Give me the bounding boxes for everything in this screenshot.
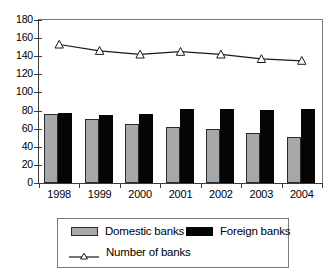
y-axis-tick-mark bbox=[34, 147, 42, 148]
legend-label-number-of-banks: Number of banks bbox=[106, 246, 191, 258]
y-axis-tick-mark bbox=[34, 165, 42, 166]
bar-domestic-banks-2000 bbox=[125, 124, 139, 183]
bar-domestic-banks-2002 bbox=[206, 129, 220, 183]
legend-row-2: Number of banks bbox=[58, 244, 288, 265]
y-axis-tick-label: 160 bbox=[0, 32, 33, 42]
y-axis-tick-label: 180 bbox=[0, 14, 33, 24]
bar-domestic-banks-2001 bbox=[166, 127, 180, 183]
bar-foreign-banks-2001 bbox=[180, 109, 194, 183]
line-triangle-swatch-icon bbox=[69, 248, 99, 257]
bar-foreign-banks-2004 bbox=[301, 109, 315, 183]
y-axis-tick-label: 0 bbox=[0, 177, 33, 187]
y-axis-tick-mark bbox=[34, 38, 42, 39]
legend-item-foreign-banks[interactable]: Foreign banks bbox=[186, 225, 290, 237]
x-axis-tick-mark bbox=[79, 183, 80, 188]
y-axis-tick-label: 140 bbox=[0, 50, 33, 60]
x-axis-tick-mark bbox=[322, 183, 323, 188]
y-axis-tick-mark bbox=[34, 74, 42, 75]
bar-domestic-banks-1998 bbox=[44, 114, 58, 183]
x-axis-tick-label: 1999 bbox=[78, 188, 122, 200]
legend-item-number-of-banks[interactable]: Number of banks bbox=[69, 246, 191, 258]
x-axis-tick-mark bbox=[39, 183, 40, 188]
x-axis-tick-label: 2001 bbox=[159, 188, 203, 200]
bar-domestic-banks-2003 bbox=[246, 133, 260, 183]
bar-domestic-banks-2004 bbox=[287, 137, 301, 183]
x-axis-tick-label: 2003 bbox=[239, 188, 283, 200]
y-axis-tick-mark bbox=[34, 20, 42, 21]
legend-label-foreign-banks: Foreign banks bbox=[220, 225, 290, 237]
y-axis-tick-label: 100 bbox=[0, 86, 33, 96]
x-axis-tick-mark bbox=[120, 183, 121, 188]
bar-foreign-banks-2002 bbox=[220, 109, 234, 183]
y-axis-tick-label: 80 bbox=[0, 105, 33, 115]
x-axis-tick-mark bbox=[201, 183, 202, 188]
y-axis-tick-mark bbox=[34, 56, 42, 57]
legend-label-domestic-banks: Domestic banks bbox=[105, 225, 184, 237]
bar-foreign-banks-2003 bbox=[260, 110, 274, 183]
y-axis-tick-mark bbox=[34, 92, 42, 93]
bar-foreign-banks-1998 bbox=[58, 113, 72, 183]
y-axis-tick-label: 20 bbox=[0, 159, 33, 169]
x-axis-tick-label: 1998 bbox=[37, 188, 81, 200]
x-axis-line bbox=[38, 183, 323, 184]
legend-row-1: Domestic banks Foreign banks bbox=[58, 223, 288, 244]
y-axis-tick-label: 40 bbox=[0, 141, 33, 151]
y-axis-tick-mark bbox=[34, 111, 42, 112]
y-axis-tick-label: 60 bbox=[0, 123, 33, 133]
x-axis-tick-label: 2000 bbox=[118, 188, 162, 200]
bar-foreign-banks-2000 bbox=[139, 114, 153, 183]
y-axis-line bbox=[38, 19, 39, 184]
x-axis-tick-label: 2004 bbox=[280, 188, 324, 200]
legend-item-domestic-banks[interactable]: Domestic banks bbox=[71, 225, 184, 237]
x-axis-tick-mark bbox=[241, 183, 242, 188]
bar-domestic-banks-1999 bbox=[85, 119, 99, 183]
y-axis-tick-mark bbox=[34, 183, 42, 184]
bar-foreign-banks-1999 bbox=[99, 115, 113, 183]
chart-container: 020406080100120140160180 199819992000200… bbox=[0, 0, 331, 279]
black-square-swatch-icon bbox=[186, 227, 213, 236]
y-axis-tick-label: 120 bbox=[0, 68, 33, 78]
x-axis-tick-label: 2002 bbox=[199, 188, 243, 200]
y-axis-tick-mark bbox=[34, 129, 42, 130]
gray-square-swatch-icon bbox=[71, 227, 98, 236]
x-axis-tick-mark bbox=[160, 183, 161, 188]
chart-legend: Domestic banks Foreign banks Number of b… bbox=[57, 218, 289, 268]
x-axis-tick-mark bbox=[282, 183, 283, 188]
